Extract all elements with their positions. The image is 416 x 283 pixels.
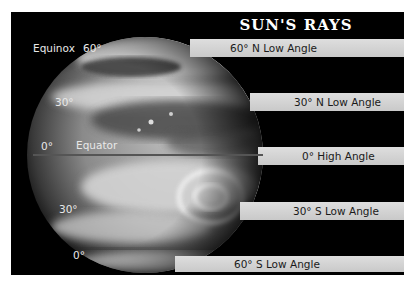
diagram-title: SUN'S RAYS [188,16,404,34]
ray-label: 60° S Low Angle [234,258,320,270]
ray-label: 30° S Low Angle [293,205,379,217]
ray-band-30s: 30° S Low Angle [240,202,404,220]
latitude-0-label: 0° [41,140,53,152]
ray-band-60s: 60° S Low Angle [175,256,404,272]
equator-label: Equator [76,139,117,151]
equator-line [33,154,263,156]
latitude-0-bottom-label: 0° [73,249,85,261]
ray-label: 60° N Low Angle [230,42,317,54]
diagram-panel: SUN'S RAYS 60° N Low Angle 30° N Low Ang… [11,12,404,275]
ray-band-0: 0° High Angle [258,147,404,165]
ray-band-30n: 30° N Low Angle [250,93,404,111]
latitude-30n-label: 30° [55,96,74,108]
equinox-label: Equinox [33,42,75,54]
latitude-60n-label: 60° [83,42,102,54]
latitude-30s-label: 30° [59,203,78,215]
ray-label: 0° High Angle [302,150,375,162]
ray-band-60n: 60° N Low Angle [190,39,404,57]
ray-label: 30° N Low Angle [294,96,381,108]
